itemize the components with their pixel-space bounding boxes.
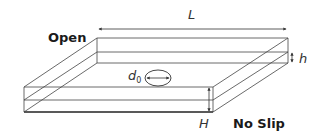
right-diagonal-mid [213, 52, 288, 100]
film-thickness-label: h [299, 52, 307, 65]
right-diagonal-bottom [213, 63, 288, 112]
no-slip-boundary-label: No Slip [233, 117, 285, 130]
left-diagonal-mid [24, 52, 97, 100]
right-diagonal-top [213, 38, 288, 87]
left-diagonal-top [24, 38, 97, 87]
length-label: L [188, 8, 195, 21]
left-diagonal-bottom [24, 63, 97, 112]
hole-diameter-label: d0 [128, 69, 141, 85]
open-boundary-label: Open [48, 31, 86, 44]
hole-diameter-subscript: 0 [136, 76, 141, 85]
height-label: H [199, 117, 209, 130]
